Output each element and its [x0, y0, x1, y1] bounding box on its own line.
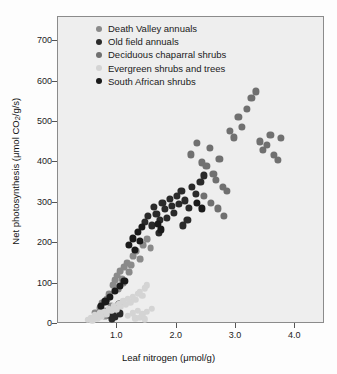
data-point	[207, 199, 214, 206]
data-point	[253, 88, 260, 95]
data-point	[200, 172, 207, 179]
data-point	[136, 256, 143, 263]
x-axis-tick-label: 2.0	[156, 330, 196, 340]
data-point	[166, 195, 173, 202]
legend-marker-icon	[96, 78, 102, 84]
data-point	[139, 293, 145, 299]
x-axis-tick	[116, 323, 117, 328]
legend-marker-icon	[96, 39, 102, 45]
x-axis-tick-label: 1.0	[96, 330, 136, 340]
legend-item-label: South African shrubs	[108, 76, 196, 87]
y-axis-title: Net photosynthesis (μmol CO2/g/s)	[10, 16, 22, 326]
x-axis-tick	[294, 323, 295, 328]
data-point	[187, 151, 194, 158]
y-axis-tick-label: 700	[0, 35, 52, 45]
legend-item-label: Evergreen shrubs and trees	[108, 63, 225, 74]
data-point	[151, 203, 158, 210]
legend-item-label: Deciduous chaparral shrubs	[108, 49, 226, 60]
data-point	[223, 187, 230, 194]
data-point	[267, 131, 274, 138]
chart-page: 0100200300400500600700 1.02.03.04.0 Net …	[0, 0, 337, 374]
y-axis-title-pre: Net photosynthesis (μmol CO	[10, 120, 21, 244]
x-axis-tick-label: 4.0	[274, 330, 314, 340]
data-point	[203, 162, 210, 169]
data-point	[129, 235, 136, 242]
data-point	[141, 316, 147, 322]
y-axis-tick-label: 400	[0, 156, 52, 166]
data-point	[128, 262, 135, 269]
data-point	[149, 305, 155, 311]
data-point	[256, 138, 263, 145]
data-point	[235, 114, 242, 121]
x-axis-tick	[235, 323, 236, 328]
data-point	[188, 183, 195, 190]
y-axis-tick-label: 600	[0, 76, 52, 86]
data-point	[212, 177, 219, 184]
data-point	[144, 236, 151, 243]
legend: Death Valley annualsOld field annualsDec…	[96, 22, 226, 88]
data-point	[277, 135, 284, 142]
y-axis-tick	[52, 323, 57, 324]
data-point	[238, 123, 245, 130]
data-point	[274, 156, 281, 163]
x-axis-title: Leaf nitrogen (μmol/g)	[0, 352, 337, 363]
data-point	[145, 212, 152, 219]
legend-marker-icon	[96, 52, 102, 58]
data-point	[147, 245, 154, 252]
data-point	[216, 156, 223, 163]
data-point	[243, 106, 250, 113]
data-point	[200, 192, 207, 199]
data-point	[263, 141, 270, 148]
x-axis-tick-label: 3.0	[215, 330, 255, 340]
y-axis-tick-label: 300	[0, 197, 52, 207]
data-point	[248, 94, 255, 101]
legend-item-label: Death Valley annuals	[108, 23, 197, 34]
legend-item: Old field annuals	[96, 35, 226, 48]
data-point	[198, 205, 205, 212]
data-point	[193, 139, 200, 146]
data-point	[192, 190, 199, 197]
legend-item: Evergreen shrubs and trees	[96, 62, 226, 75]
x-axis-tick	[176, 323, 177, 328]
legend-item: Deciduous chaparral shrubs	[96, 48, 226, 61]
data-point	[181, 197, 188, 204]
data-point	[121, 278, 128, 285]
x-axis-title-pre: Leaf nitrogen (	[122, 352, 183, 363]
data-point	[184, 216, 191, 223]
legend-item-label: Old field annuals	[108, 36, 179, 47]
data-point	[144, 282, 150, 288]
data-point	[185, 204, 192, 211]
data-point	[132, 297, 138, 303]
y-axis-tick-label: 0	[0, 318, 52, 328]
data-point	[215, 205, 222, 212]
y-axis-title-post: /g/s)	[10, 98, 21, 116]
data-point	[178, 187, 185, 194]
y-axis-tick-label: 500	[0, 116, 52, 126]
data-point	[197, 178, 204, 185]
y-axis-tick-label: 100	[0, 278, 52, 288]
data-point	[126, 269, 133, 276]
data-point	[206, 144, 213, 151]
data-point	[164, 215, 171, 222]
legend-item: Death Valley annuals	[96, 22, 226, 35]
data-point	[161, 206, 168, 213]
data-point	[139, 223, 146, 230]
legend-item: South African shrubs	[96, 75, 226, 88]
data-point	[171, 209, 178, 216]
x-axis-title-post: mol/g)	[189, 352, 215, 363]
data-point	[230, 134, 237, 141]
legend-marker-icon	[96, 26, 102, 32]
data-point	[158, 226, 165, 233]
data-point	[221, 212, 228, 219]
data-point	[108, 316, 115, 323]
y-axis-title-subscript: 2	[13, 116, 22, 120]
legend-marker-icon	[96, 65, 102, 71]
y-axis-tick-label: 200	[0, 237, 52, 247]
